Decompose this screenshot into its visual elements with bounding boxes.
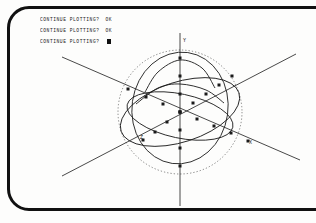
plot-markers-layer — [127, 57, 250, 168]
data-point-marker — [213, 125, 216, 128]
plotter-output-screen: CONTINUE PLOTTING? OK CONTINUE PLOTTING?… — [0, 0, 316, 223]
data-point-marker — [179, 147, 182, 150]
data-point-marker — [231, 75, 234, 78]
data-point-marker — [179, 165, 182, 168]
data-point-marker — [196, 118, 199, 121]
three-d-plot-canvas: YXZ — [0, 0, 316, 223]
data-point-marker — [179, 75, 182, 78]
data-point-marker — [205, 93, 208, 96]
data-point-marker — [179, 57, 182, 60]
data-point-marker — [179, 111, 182, 114]
data-point-marker — [162, 103, 165, 106]
data-point-marker — [166, 121, 169, 124]
data-point-marker — [192, 102, 195, 105]
data-point-marker — [179, 129, 182, 132]
axis-label-y: Y — [183, 38, 186, 44]
axis-label-z: Z — [140, 135, 143, 141]
data-point-marker — [179, 93, 182, 96]
data-point-marker — [218, 84, 221, 87]
axis-line-x — [62, 57, 300, 160]
data-point-marker — [127, 88, 130, 91]
axis-label-x: X — [249, 140, 252, 146]
data-point-marker — [154, 131, 157, 134]
data-point-marker — [145, 96, 148, 99]
data-point-marker — [230, 132, 233, 135]
